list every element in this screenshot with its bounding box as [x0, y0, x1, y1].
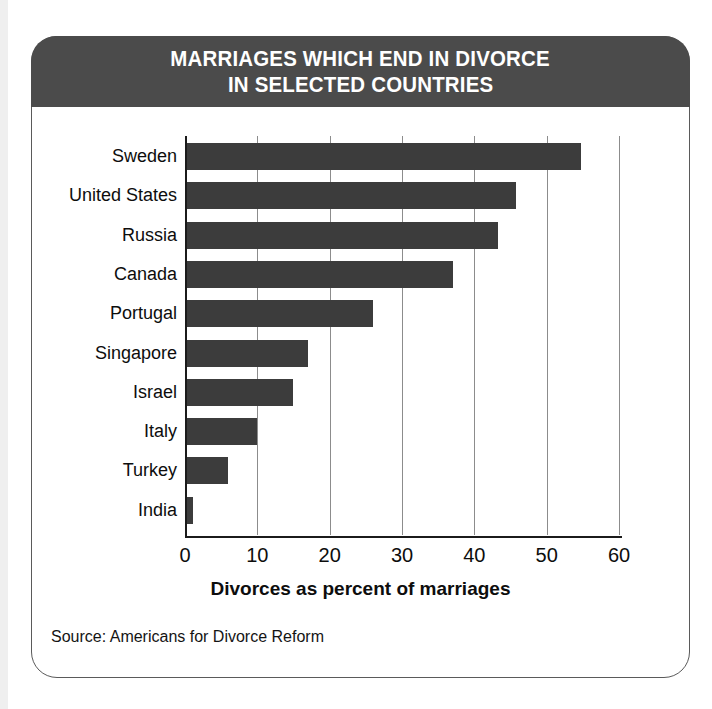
- x-tick-label-50: 50: [536, 543, 558, 567]
- bar-sweden: [185, 143, 581, 170]
- category-label-canada: Canada: [7, 261, 177, 288]
- bar-israel: [185, 379, 293, 406]
- category-axis-labels: SwedenUnited StatesRussiaCanadaPortugalS…: [5, 136, 177, 536]
- category-label-united-states: United States: [7, 182, 177, 209]
- x-axis-line: [185, 536, 622, 538]
- bar-russia: [185, 222, 498, 249]
- category-label-turkey: Turkey: [7, 457, 177, 484]
- x-tick-label-60: 60: [608, 543, 630, 567]
- chart-title-line-2: IN SELECTED COUNTRIES: [228, 72, 493, 98]
- category-label-italy: Italy: [7, 418, 177, 445]
- category-label-israel: Israel: [7, 379, 177, 406]
- category-label-portugal: Portugal: [7, 300, 177, 327]
- bar-turkey: [185, 457, 228, 484]
- x-tick-label-0: 0: [179, 543, 190, 567]
- x-axis-tick-labels: 0102030405060: [185, 543, 619, 571]
- category-label-russia: Russia: [7, 222, 177, 249]
- bar-singapore: [185, 340, 308, 367]
- bar-united-states: [185, 182, 516, 209]
- source-note: Source: Americans for Divorce Reform: [51, 628, 324, 646]
- category-label-india: India: [7, 497, 177, 524]
- y-axis-line: [185, 136, 187, 536]
- category-label-sweden: Sweden: [7, 143, 177, 170]
- chart-title-line-1: MARRIAGES WHICH END IN DIVORCE: [171, 46, 551, 72]
- chart-title-banner: MARRIAGES WHICH END IN DIVORCE IN SELECT…: [31, 36, 690, 107]
- plot-area: [185, 136, 619, 535]
- x-tick-label-20: 20: [319, 543, 341, 567]
- bar-italy: [185, 418, 257, 445]
- x-axis-title: Divorces as percent of marriages: [31, 578, 690, 600]
- gridline-60: [619, 136, 620, 535]
- bar-portugal: [185, 300, 373, 327]
- category-label-singapore: Singapore: [7, 340, 177, 367]
- x-tick-label-40: 40: [463, 543, 485, 567]
- x-tick-label-10: 10: [246, 543, 268, 567]
- gridline-50: [547, 136, 548, 535]
- x-tick-label-30: 30: [391, 543, 413, 567]
- bar-canada: [185, 261, 453, 288]
